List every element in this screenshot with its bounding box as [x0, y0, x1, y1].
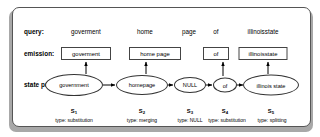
state-name-index: 3	[191, 110, 193, 115]
state-type: type: splitting	[257, 117, 286, 123]
state-name-index: 2	[143, 110, 145, 115]
state-ellipse: homepage	[116, 75, 168, 95]
state-ellipse: illinois state	[243, 75, 299, 96]
state-type: type: merging	[127, 117, 157, 123]
query-term: of	[213, 28, 218, 35]
state-name-index: 1	[75, 110, 77, 115]
state-ellipse: of	[213, 78, 237, 93]
query-term: page	[182, 28, 196, 35]
state-ellipse: government	[45, 74, 103, 96]
emission-box: illinoisstate	[239, 47, 288, 60]
state-type: type: substitution	[208, 117, 246, 123]
state-name: S2	[139, 108, 145, 114]
hmm-state-path-diagram: query: emission: state path: goverment h…	[0, 0, 320, 137]
state-ellipse: NULL	[174, 77, 206, 93]
state-type: type: substitution	[55, 117, 93, 123]
emission-box: home page	[129, 47, 181, 60]
state-name: S3	[187, 108, 193, 114]
state-name: S4	[222, 108, 228, 114]
state-name-index: 4	[226, 110, 228, 115]
query-term: goverment	[71, 28, 101, 35]
emission-box: of	[203, 47, 229, 60]
query-term: illinoisstate	[248, 28, 279, 35]
state-name: S5	[268, 108, 274, 114]
emission-box: goverment	[61, 47, 111, 60]
state-name-index: 5	[272, 110, 274, 115]
diagram-panel	[12, 7, 311, 127]
state-type: type: NULL	[177, 117, 202, 123]
row-label-query: query:	[24, 28, 44, 35]
state-name: S1	[71, 108, 77, 114]
query-term: home	[137, 28, 153, 35]
row-label-emission: emission:	[24, 50, 54, 57]
